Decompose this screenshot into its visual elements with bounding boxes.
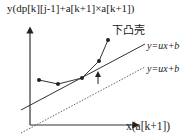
upper-line-label: y=ux+b: [147, 41, 179, 51]
y-axis-label: y(dp[k][j-1]+a[k+1]×a[k+1]): [7, 3, 134, 14]
convex-hull-diagram: y(dp[k][j-1]+a[k+1]×a[k+1]) 下凸壳 y=ux+b y…: [0, 0, 191, 140]
hull-label: 下凸壳: [112, 25, 145, 36]
x-axis-label: x(a[k+1]): [126, 121, 170, 133]
hull-points: [37, 38, 110, 86]
lower-line-label: y=ux+b: [147, 64, 179, 74]
